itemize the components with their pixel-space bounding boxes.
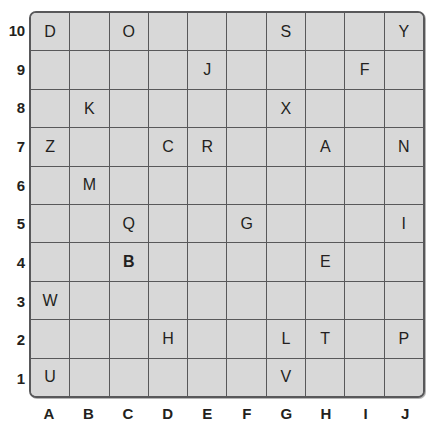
grid-cell-C1[interactable] xyxy=(110,359,149,396)
grid-cell-D6[interactable] xyxy=(149,167,188,204)
grid-cell-F8[interactable] xyxy=(227,90,266,127)
grid-cell-D2[interactable]: H xyxy=(149,320,188,357)
grid-cell-H3[interactable] xyxy=(306,282,345,319)
grid-cell-F10[interactable] xyxy=(227,13,266,50)
grid-cell-G6[interactable] xyxy=(267,167,306,204)
grid-cell-I5[interactable] xyxy=(345,205,384,242)
grid-cell-A8[interactable] xyxy=(31,90,70,127)
grid-cell-J3[interactable] xyxy=(385,282,423,319)
grid-cell-C2[interactable] xyxy=(110,320,149,357)
grid-cell-H9[interactable] xyxy=(306,51,345,88)
grid-cell-F1[interactable] xyxy=(227,359,266,396)
grid-cell-I6[interactable] xyxy=(345,167,384,204)
grid-cell-I7[interactable] xyxy=(345,128,384,165)
grid-cell-F4[interactable] xyxy=(227,243,266,280)
grid-cell-A7[interactable]: Z xyxy=(31,128,70,165)
grid-cell-I4[interactable] xyxy=(345,243,384,280)
grid-cell-I3[interactable] xyxy=(345,282,384,319)
grid-cell-H2[interactable]: T xyxy=(306,320,345,357)
grid-cell-D1[interactable] xyxy=(149,359,188,396)
grid-cell-B7[interactable] xyxy=(70,128,109,165)
grid-cell-I10[interactable] xyxy=(345,13,384,50)
grid-cell-J7[interactable]: N xyxy=(385,128,423,165)
grid-cell-B6[interactable]: M xyxy=(70,167,109,204)
grid-cell-D8[interactable] xyxy=(149,90,188,127)
grid-cell-C4[interactable]: B xyxy=(110,243,149,280)
grid-cell-D10[interactable] xyxy=(149,13,188,50)
grid-cell-B10[interactable] xyxy=(70,13,109,50)
grid-cell-H10[interactable] xyxy=(306,13,345,50)
grid-cell-G7[interactable] xyxy=(267,128,306,165)
grid-cell-G3[interactable] xyxy=(267,282,306,319)
grid-cell-G8[interactable]: X xyxy=(267,90,306,127)
grid-cell-J2[interactable]: P xyxy=(385,320,423,357)
grid-cell-G4[interactable] xyxy=(267,243,306,280)
grid-cell-G1[interactable]: V xyxy=(267,359,306,396)
grid-cell-J9[interactable] xyxy=(385,51,423,88)
grid-cell-C7[interactable] xyxy=(110,128,149,165)
grid-cell-B1[interactable] xyxy=(70,359,109,396)
grid-cell-E8[interactable] xyxy=(188,90,227,127)
grid-cell-F6[interactable] xyxy=(227,167,266,204)
grid-cell-G2[interactable]: L xyxy=(267,320,306,357)
grid-cell-B9[interactable] xyxy=(70,51,109,88)
grid-cell-D3[interactable] xyxy=(149,282,188,319)
grid-cell-I2[interactable] xyxy=(345,320,384,357)
grid-cell-G9[interactable] xyxy=(267,51,306,88)
grid-cell-D5[interactable] xyxy=(149,205,188,242)
grid-cell-F3[interactable] xyxy=(227,282,266,319)
grid-cell-F9[interactable] xyxy=(227,51,266,88)
grid-cell-D9[interactable] xyxy=(149,51,188,88)
grid-cell-B3[interactable] xyxy=(70,282,109,319)
grid-cell-H4[interactable]: E xyxy=(306,243,345,280)
grid-cell-B2[interactable] xyxy=(70,320,109,357)
grid-cell-E7[interactable]: R xyxy=(188,128,227,165)
grid-cell-I9[interactable]: F xyxy=(345,51,384,88)
grid-cell-C9[interactable] xyxy=(110,51,149,88)
grid-cell-C5[interactable]: Q xyxy=(110,205,149,242)
grid-cell-J6[interactable] xyxy=(385,167,423,204)
grid-cell-E1[interactable] xyxy=(188,359,227,396)
letter-grid[interactable]: DOSYJFKXZCRANMQGIBEWHLTPUV xyxy=(29,11,425,398)
grid-cell-J4[interactable] xyxy=(385,243,423,280)
grid-cell-A6[interactable] xyxy=(31,167,70,204)
grid-cell-B4[interactable] xyxy=(70,243,109,280)
grid-cell-C6[interactable] xyxy=(110,167,149,204)
grid-cell-A2[interactable] xyxy=(31,320,70,357)
grid-cell-E9[interactable]: J xyxy=(188,51,227,88)
grid-cell-F2[interactable] xyxy=(227,320,266,357)
grid-cell-A3[interactable]: W xyxy=(31,282,70,319)
grid-cell-C10[interactable]: O xyxy=(110,13,149,50)
grid-cell-H8[interactable] xyxy=(306,90,345,127)
grid-cell-J5[interactable]: I xyxy=(385,205,423,242)
grid-cell-D7[interactable]: C xyxy=(149,128,188,165)
grid-cell-H6[interactable] xyxy=(306,167,345,204)
grid-cell-H5[interactable] xyxy=(306,205,345,242)
grid-cell-E5[interactable] xyxy=(188,205,227,242)
grid-cell-A9[interactable] xyxy=(31,51,70,88)
grid-cell-E6[interactable] xyxy=(188,167,227,204)
grid-cell-E10[interactable] xyxy=(188,13,227,50)
grid-cell-C3[interactable] xyxy=(110,282,149,319)
grid-cell-J1[interactable] xyxy=(385,359,423,396)
grid-cell-A1[interactable]: U xyxy=(31,359,70,396)
grid-cell-E3[interactable] xyxy=(188,282,227,319)
grid-cell-B8[interactable]: K xyxy=(70,90,109,127)
grid-cell-A4[interactable] xyxy=(31,243,70,280)
grid-cell-G10[interactable]: S xyxy=(267,13,306,50)
grid-cell-B5[interactable] xyxy=(70,205,109,242)
grid-cell-J8[interactable] xyxy=(385,90,423,127)
grid-cell-J10[interactable]: Y xyxy=(385,13,423,50)
grid-cell-A10[interactable]: D xyxy=(31,13,70,50)
grid-cell-F5[interactable]: G xyxy=(227,205,266,242)
grid-cell-H7[interactable]: A xyxy=(306,128,345,165)
grid-cell-I8[interactable] xyxy=(345,90,384,127)
grid-cell-E4[interactable] xyxy=(188,243,227,280)
grid-cell-E2[interactable] xyxy=(188,320,227,357)
grid-cell-A5[interactable] xyxy=(31,205,70,242)
grid-cell-C8[interactable] xyxy=(110,90,149,127)
grid-cell-H1[interactable] xyxy=(306,359,345,396)
grid-cell-F7[interactable] xyxy=(227,128,266,165)
grid-cell-G5[interactable] xyxy=(267,205,306,242)
grid-cell-D4[interactable] xyxy=(149,243,188,280)
